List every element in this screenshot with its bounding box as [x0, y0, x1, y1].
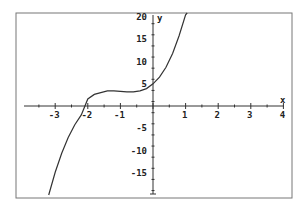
y-tick-label: -5	[136, 123, 147, 133]
y-tick-label: -15	[131, 168, 147, 178]
x-tick-label: 3	[247, 110, 252, 120]
x-tick-label: -1	[114, 110, 125, 120]
x-tick-label: 2	[214, 110, 219, 120]
x-tick-label: 1	[182, 110, 187, 120]
y-tick-label: 20	[136, 12, 147, 22]
x-tick-label: 4	[280, 110, 286, 120]
x-tick-label: -3	[49, 110, 60, 120]
y-tick-label: 10	[136, 57, 147, 67]
y-tick-label: -10	[131, 146, 147, 156]
y-tick-label: 5	[142, 79, 147, 89]
x-axis-label: x	[280, 95, 286, 105]
y-axis-label: y	[157, 13, 163, 23]
y-tick-label: 15	[136, 34, 147, 44]
chart: -3-2-112342015105-5-10-15 x y	[0, 0, 303, 209]
